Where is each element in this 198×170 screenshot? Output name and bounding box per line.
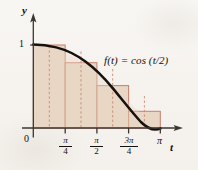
x-axis-label: t xyxy=(170,142,173,153)
x-tick-label-pi: π xyxy=(157,136,162,146)
fraction-denominator: 4 xyxy=(120,147,138,157)
y-tick-label-1: 1 xyxy=(19,39,24,49)
fraction-numerator: π xyxy=(90,136,103,146)
y-axis-label: y xyxy=(22,5,27,16)
fraction-numerator: π xyxy=(59,136,72,146)
fraction-denominator: 4 xyxy=(59,147,72,157)
fraction-numerator: 3π xyxy=(120,136,138,146)
x-tick-label-three-pi-over-4: 3π 4 xyxy=(120,136,138,156)
function-label-text: f(t) = cos (t/2) xyxy=(104,54,168,66)
x-tick-label-pi-over-2: π 2 xyxy=(90,136,103,156)
x-tick-label-pi-over-4: π 4 xyxy=(59,136,72,156)
origin-label: 0 xyxy=(24,134,29,144)
fraction-denominator: 2 xyxy=(90,147,103,157)
midpoint-rule-figure: y t 1 0 f(t) = cos (t/2) π 4 π 2 3π 4 π xyxy=(0,0,198,170)
function-label: f(t) = cos (t/2) xyxy=(104,55,168,66)
